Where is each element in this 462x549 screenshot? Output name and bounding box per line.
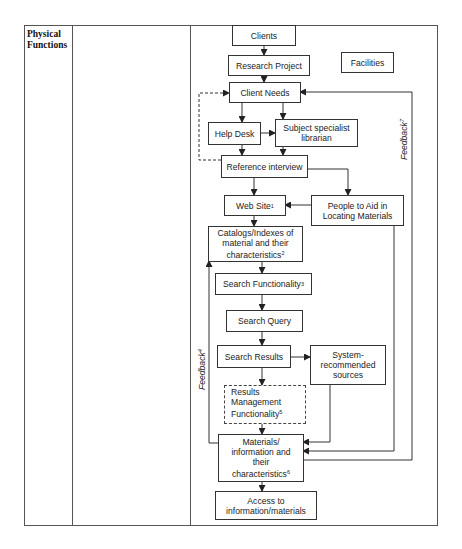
node-materials-line4-wrap: characteristics6	[232, 467, 290, 479]
node-catalogs-indexes: Catalogs/Indexes of material and their c…	[208, 226, 303, 262]
node-people-to-aid: People to Aid in Locating Materials	[311, 195, 404, 226]
node-results-management-functionality: Results Management Functionality5	[224, 385, 306, 424]
node-client-needs: Client Needs	[229, 82, 301, 103]
node-help-desk: Help Desk	[208, 122, 261, 145]
node-results-management-note: 5	[279, 409, 282, 415]
node-clients-label: Clients	[251, 31, 277, 41]
node-search-functionality-note: 3	[301, 279, 304, 289]
node-system-recommended-line3: sources	[333, 370, 363, 380]
column-divider-2	[190, 25, 191, 526]
node-access-to-information: Access to information/materials	[215, 491, 317, 520]
node-search-query: Search Query	[226, 310, 303, 332]
node-subject-specialist-line2: librarian	[301, 133, 332, 143]
node-materials-line1: Materials/	[242, 437, 279, 447]
node-catalogs-line3-wrap: characteristics2	[227, 248, 285, 260]
node-search-results: Search Results	[217, 345, 291, 368]
feedback-4-label: Feedback4	[197, 349, 207, 390]
node-search-results-label: Search Results	[225, 352, 283, 362]
node-materials-information: Materials/ information and their charact…	[218, 434, 304, 482]
node-system-recommended-sources: System- recommended sources	[310, 345, 386, 385]
node-search-functionality: Search Functionality3	[215, 273, 312, 295]
node-materials-line4: characteristics	[232, 469, 287, 479]
node-access-line1: Access to	[247, 496, 284, 506]
node-materials-line2: information and	[231, 447, 290, 457]
row-label-physical-functions: Physical Functions	[27, 29, 67, 51]
row-label-line2: Functions	[27, 40, 67, 51]
column-divider-1	[72, 25, 73, 526]
feedback-7-label: Feedback7	[399, 119, 409, 160]
node-clients: Clients	[232, 25, 296, 46]
row-label-line1: Physical	[27, 29, 67, 40]
node-catalogs-line3: characteristics	[227, 250, 282, 260]
node-help-desk-label: Help Desk	[215, 129, 255, 139]
node-facilities-label: Facilities	[351, 58, 384, 68]
node-search-functionality-label: Search Functionality	[223, 279, 301, 289]
node-research-project-label: Research Project	[236, 61, 302, 71]
node-catalogs-line1: Catalogs/Indexes of	[218, 228, 294, 238]
node-search-query-label: Search Query	[238, 316, 291, 326]
node-web-site: Web Site1	[224, 195, 286, 216]
node-results-management-line3: Functionality	[231, 409, 279, 419]
node-catalogs-line2: material and their	[222, 238, 288, 248]
feedback-7-text: Feedback	[399, 122, 409, 160]
node-results-management-line3-wrap: Functionality5	[231, 407, 282, 419]
feedback-4-note: 4	[197, 349, 203, 352]
node-web-site-note: 1	[271, 201, 274, 211]
node-access-line2: information/materials	[226, 506, 306, 516]
node-people-to-aid-line1: People to Aid in	[328, 201, 388, 211]
node-catalogs-note: 2	[281, 250, 284, 256]
feedback-4-text: Feedback	[197, 352, 207, 390]
node-facilities: Facilities	[341, 52, 394, 73]
node-results-management-line1: Results	[231, 387, 260, 397]
node-system-recommended-line1: System-	[332, 350, 364, 360]
node-research-project: Research Project	[228, 55, 310, 76]
node-reference-interview: Reference interview	[221, 155, 308, 178]
node-people-to-aid-line2: Locating Materials	[323, 211, 393, 221]
node-materials-line3: their	[253, 457, 270, 467]
node-results-management-line2: Management	[231, 397, 281, 407]
feedback-7-note: 7	[399, 119, 405, 122]
node-subject-specialist-line1: Subject specialist	[283, 123, 349, 133]
node-web-site-label: Web Site	[236, 201, 271, 211]
node-reference-interview-label: Reference interview	[227, 162, 303, 172]
node-system-recommended-line2: recommended	[321, 360, 376, 370]
node-materials-note: 6	[287, 469, 290, 475]
node-subject-specialist-librarian: Subject specialist librarian	[275, 119, 358, 147]
node-client-needs-label: Client Needs	[240, 88, 289, 98]
